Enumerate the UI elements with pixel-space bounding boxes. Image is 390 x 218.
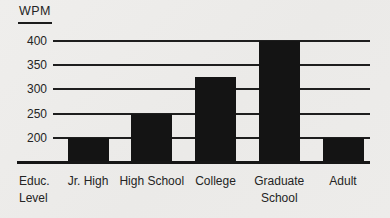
y-tick-label: 250 [0,107,47,121]
bar [131,114,172,163]
y-tick-label: 350 [0,58,47,72]
bar [68,138,109,162]
y-tick-label: 200 [0,131,47,145]
gridline [53,40,370,42]
category-label: High School [116,173,188,190]
y-tick-label: 400 [0,34,47,48]
category-label: College [180,173,252,190]
bar [195,77,236,162]
y-tick-label: 300 [0,82,47,96]
y-axis-title: WPM [18,4,52,24]
gridline [53,64,370,66]
category-label: Graduate School [243,173,315,207]
bar [323,138,364,162]
x-axis-title: Educ. Level [19,173,63,207]
category-label: Adult [307,173,379,190]
x-axis-baseline [17,161,370,164]
bar-chart: WPM 200250300350400Jr. HighHigh SchoolCo… [0,0,390,218]
bar [259,41,300,162]
